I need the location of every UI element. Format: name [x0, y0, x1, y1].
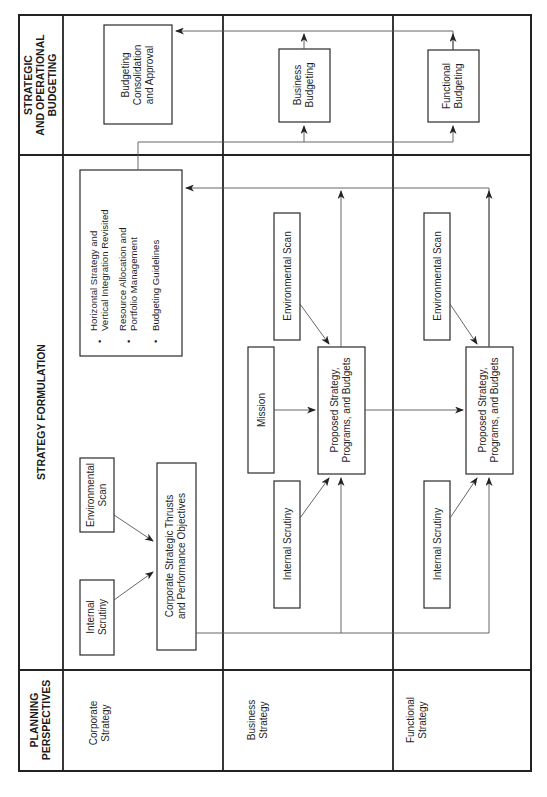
svg-text:Business: Business	[292, 65, 303, 106]
svg-text:Strategy: Strategy	[258, 701, 269, 738]
header-budgeting: STRATEGIC AND OPERATIONAL BUDGETING	[22, 34, 58, 136]
svg-text:Environmental Scan: Environmental Scan	[432, 231, 443, 321]
svg-text:Mission: Mission	[256, 393, 267, 427]
row-label-business: Business Strategy	[246, 700, 269, 741]
svg-text:Vertical Integration Revisited: Vertical Integration Revisited	[99, 209, 110, 331]
corp-internal-scrutiny-label: Internal Scrutiny	[85, 599, 108, 635]
svg-text:Proposed Strategy,: Proposed Strategy,	[329, 368, 340, 453]
svg-text:•: •	[94, 340, 105, 343]
header-strategy-formulation: STRATEGY FORMULATION	[35, 344, 47, 480]
arrow-func-scan-to-proposed	[450, 304, 477, 344]
func-internal-scrutiny-label: Internal Scrutiny	[432, 508, 443, 580]
svg-text:Internal Scrutiny: Internal Scrutiny	[432, 508, 443, 580]
svg-text:Environmental Scan: Environmental Scan	[282, 231, 293, 321]
svg-text:Budgeting: Budgeting	[453, 63, 464, 108]
arrow-func-scrutiny-to-proposed	[450, 478, 477, 518]
svg-text:•: •	[123, 340, 134, 343]
row-label-corporate: Corporate Strategy	[88, 700, 111, 745]
svg-text:Functional: Functional	[405, 697, 416, 743]
func-environmental-scan-label: Environmental Scan	[432, 231, 443, 321]
svg-text:Programs, and Budgets: Programs, and Budgets	[341, 357, 352, 462]
corp-thrusts-label: Corporate Strategic Thrusts and Performa…	[164, 493, 187, 619]
svg-text:Corporate Strategic Thrusts: Corporate Strategic Thrusts	[164, 495, 175, 618]
svg-text:AND OPERATIONAL: AND OPERATIONAL	[34, 34, 46, 136]
func-proposed-label: Proposed Strategy, Programs, and Budgets	[477, 357, 500, 462]
arrow-guidelines-to-func-budgeting	[138, 126, 453, 170]
svg-text:and Performance Objectives: and Performance Objectives	[176, 493, 187, 619]
svg-text:Budgeting: Budgeting	[304, 62, 315, 107]
bus-environmental-scan-label: Environmental Scan	[282, 231, 293, 321]
svg-text:Strategy: Strategy	[100, 704, 111, 741]
svg-text:Resource Allocation and: Resource Allocation and	[117, 228, 128, 331]
svg-text:Internal Scrutiny: Internal Scrutiny	[282, 508, 293, 580]
arrow-bus-scrutiny-to-proposed	[300, 478, 329, 518]
svg-text:Internal: Internal	[85, 600, 96, 633]
svg-text:and Approval: and Approval	[144, 46, 155, 104]
svg-text:Scrutiny: Scrutiny	[97, 599, 108, 635]
svg-text:Proposed Strategy,: Proposed Strategy,	[477, 368, 488, 453]
row-label-functional: Functional Strategy	[405, 697, 428, 743]
planning-diagram: STRATEGIC AND OPERATIONAL BUDGETING STRA…	[0, 0, 547, 797]
diagram-frame	[19, 15, 531, 771]
svg-text:Portfolio Management: Portfolio Management	[128, 237, 139, 331]
svg-text:Budgeting: Budgeting	[120, 52, 131, 97]
svg-text:Budgeting Guidelines: Budgeting Guidelines	[150, 240, 161, 331]
arrow-budgeting-to-consolidation	[176, 31, 453, 50]
svg-text:Corporate: Corporate	[88, 700, 99, 745]
svg-text:Horizontal Strategy and: Horizontal Strategy and	[88, 231, 99, 331]
svg-text:Strategy: Strategy	[417, 701, 428, 738]
svg-text:STRATEGY FORMULATION: STRATEGY FORMULATION	[35, 344, 47, 480]
header-planning-perspectives: PLANNING PERSPECTIVES	[28, 680, 52, 761]
svg-text:STRATEGIC: STRATEGIC	[22, 55, 34, 115]
bus-internal-scrutiny-label: Internal Scrutiny	[282, 508, 293, 580]
svg-text:Scan: Scan	[97, 484, 108, 507]
budgeting-consolidation-label: Budgeting Consolidation and Approval	[120, 45, 155, 106]
arrow-corp-scrutiny-to-thrusts	[114, 572, 153, 600]
svg-text:BUDGETING: BUDGETING	[46, 54, 58, 117]
svg-text:Business: Business	[246, 700, 257, 741]
svg-text:PERSPECTIVES: PERSPECTIVES	[40, 680, 52, 761]
arrow-bus-scan-to-proposed	[300, 304, 329, 344]
svg-text:Functional: Functional	[441, 63, 452, 109]
svg-text:•: •	[150, 340, 161, 343]
mission-label: Mission	[256, 393, 267, 427]
bus-proposed-label: Proposed Strategy, Programs, and Budgets	[329, 357, 352, 462]
svg-text:Environmental: Environmental	[85, 463, 96, 527]
functional-budgeting-label: Functional Budgeting	[441, 63, 464, 109]
arrow-corp-scan-to-thrusts	[114, 515, 153, 541]
svg-text:Programs, and Budgets: Programs, and Budgets	[489, 357, 500, 462]
svg-text:Consolidation: Consolidation	[132, 45, 143, 106]
svg-text:PLANNING: PLANNING	[28, 693, 40, 748]
business-budgeting-label: Business Budgeting	[292, 62, 315, 107]
